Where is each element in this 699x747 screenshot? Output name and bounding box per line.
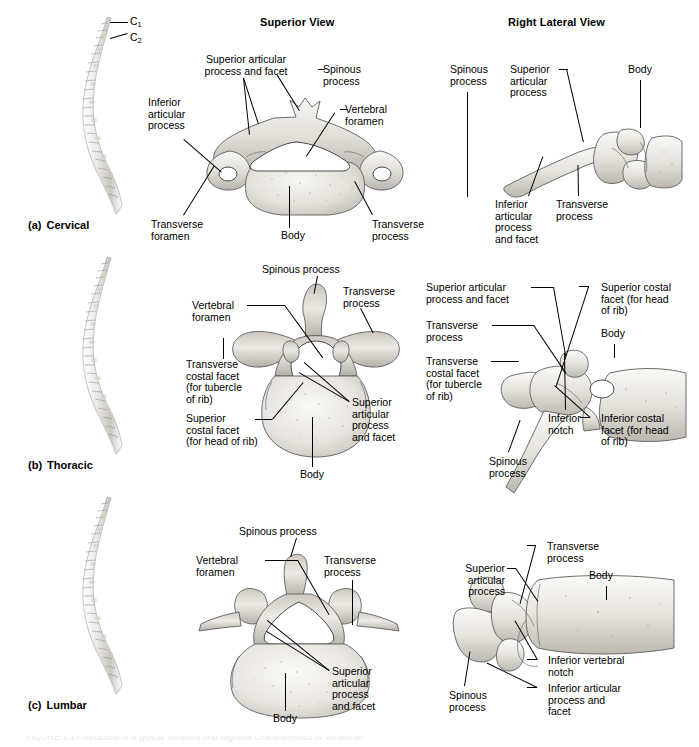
label-lumbar-superior-articular: Superior articular process and facet	[332, 666, 375, 712]
label-cervical-body: Body	[281, 230, 305, 242]
label-cervical-inferior-articular: Inferior articular process	[148, 97, 185, 132]
label-thoracic-lateral-transverse-process: Transverse process	[426, 320, 478, 343]
leader-thoracic-lateral-superior-articular	[531, 287, 554, 288]
leader-cervical-lateral-body	[640, 80, 641, 128]
figure-caption: FIGURE 7.17 Structure of a typical verte…	[26, 736, 365, 742]
vertebra-marker-c2: C2	[130, 31, 142, 43]
label-lumbar-lateral-inferior-articular: Inferior articular process and facet	[548, 683, 621, 718]
leader-c1	[110, 22, 128, 23]
label-lumbar-lateral-superior-articular: Superior articular process	[420, 563, 505, 598]
label-thoracic-lateral-transverse-costal-facet: Transverse costal facet (for tubercle of…	[426, 356, 482, 402]
label-lumbar-lateral-body: Body	[589, 570, 613, 582]
label-cervical-lateral-superior-articular: Superior articular process	[510, 64, 550, 99]
row-label-thoracic: (b)Thoracic	[28, 459, 93, 471]
row-letter-a: (a)	[28, 219, 41, 231]
leader-cervical-spinous	[318, 69, 325, 70]
vertebral-column-illustration-lumbar	[78, 494, 140, 700]
label-thoracic-superior-transverse-process: Transverse process	[343, 286, 395, 309]
label-cervical-transverse-process: Transverse process	[372, 219, 424, 242]
label-lumbar-lateral-transverse-process: Transverse process	[547, 541, 599, 564]
vertebral-column-illustration-cervical	[78, 14, 140, 220]
leader-cervical-vertebral-foramen	[340, 109, 347, 110]
row-letter-b: (b)	[28, 459, 42, 471]
label-lumbar-superior-transverse-process: Transverse process	[324, 555, 376, 578]
label-thoracic-lateral-inferior-costal-facet: Inferior costal facet (for head of rib)	[601, 413, 669, 448]
leader-lumbar-lateral-inferior-vertebral-notch	[527, 659, 537, 660]
label-lumbar-superior-spinous: Spinous process	[239, 526, 317, 538]
label-thoracic-superior-articular: Superior articular process and facet	[352, 397, 395, 443]
leader-cervical-lateral-spinous	[467, 92, 468, 197]
column-header-right-lateral-view: Right Lateral View	[508, 16, 605, 28]
vertebral-column-illustration-thoracic	[78, 254, 140, 460]
label-cervical-lateral-spinous: Spinous process	[450, 64, 488, 87]
label-cervical-lateral-body: Body	[628, 64, 652, 76]
label-thoracic-superior-transverse-costal-facet: Transverse costal facet (for tubercle of…	[186, 359, 242, 405]
label-thoracic-superior-spinous: Spinous process	[262, 264, 340, 276]
row-label-cervical: (a)Cervical	[28, 219, 89, 231]
leader-thoracic-lateral-transverse-costal-facet	[491, 361, 519, 362]
row-label-lumbar: (c)Lumbar	[28, 699, 87, 711]
label-thoracic-lateral-inferior-notch: Inferior notch	[548, 413, 581, 436]
row-letter-c: (c)	[28, 699, 41, 711]
label-cervical-spinous-process: Spinous process	[323, 64, 361, 87]
vertebrae-figure: Superior View Right Lateral View (a)Cerv…	[0, 0, 699, 747]
leader-lumbar-vertebral-foramen	[265, 560, 298, 561]
leader-lumbar-body	[285, 673, 286, 711]
label-thoracic-lateral-spinous: Spinous process	[489, 456, 527, 479]
leader-thoracic-transverse-costal-facet	[223, 338, 224, 359]
row-name-thoracic: Thoracic	[47, 459, 93, 471]
leader-thoracic-lateral-transverse-process	[492, 325, 534, 326]
leader-lumbar-transverse-process	[352, 580, 353, 625]
label-cervical-lateral-transverse-process: Transverse process	[556, 199, 608, 222]
label-thoracic-superior-body: Body	[300, 469, 324, 481]
leader-thoracic-lateral-body	[614, 344, 615, 358]
label-cervical-transverse-foramen: Transverse foramen	[151, 219, 203, 242]
leader-thoracic-body	[312, 417, 313, 467]
label-thoracic-superior-vertebral-foramen: Vertebral foramen	[192, 300, 234, 323]
row-name-cervical: Cervical	[46, 219, 89, 231]
label-lumbar-lateral-inferior-vertebral-notch: Inferior vertebral notch	[548, 655, 624, 678]
column-header-superior-view: Superior View	[260, 16, 334, 28]
label-lumbar-superior-vertebral-foramen: Vertebral foramen	[196, 555, 238, 578]
leader-cervical-body	[289, 186, 290, 228]
leader-thoracic-vertebral-foramen	[247, 305, 285, 306]
row-name-lumbar: Lumbar	[46, 699, 86, 711]
leader-lumbar-lateral-body	[606, 586, 607, 600]
label-thoracic-superior-costal-facet: Superior costal facet (for head of rib)	[186, 413, 258, 448]
label-lumbar-superior-body: Body	[273, 713, 297, 725]
label-lumbar-lateral-spinous: Spinous process	[449, 690, 487, 713]
label-thoracic-lateral-superior-costal-facet: Superior costal facet (for head of rib)	[601, 282, 671, 317]
label-thoracic-lateral-body: Body	[601, 328, 625, 340]
vertebra-marker-c1: C1	[130, 15, 142, 27]
leader-thoracic-superior-costal-facet	[255, 419, 272, 420]
label-thoracic-lateral-superior-articular: Superior articular process and facet	[426, 282, 509, 305]
label-cervical-vertebral-foramen: Vertebral foramen	[345, 104, 387, 127]
figure-caption-strip: FIGURE 7.17 Structure of a typical verte…	[0, 736, 699, 747]
label-cervical-superior-articular: Superior articular process and facet	[186, 54, 306, 77]
label-cervical-lateral-inferior-articular: Inferior articular process and facet	[495, 199, 538, 245]
